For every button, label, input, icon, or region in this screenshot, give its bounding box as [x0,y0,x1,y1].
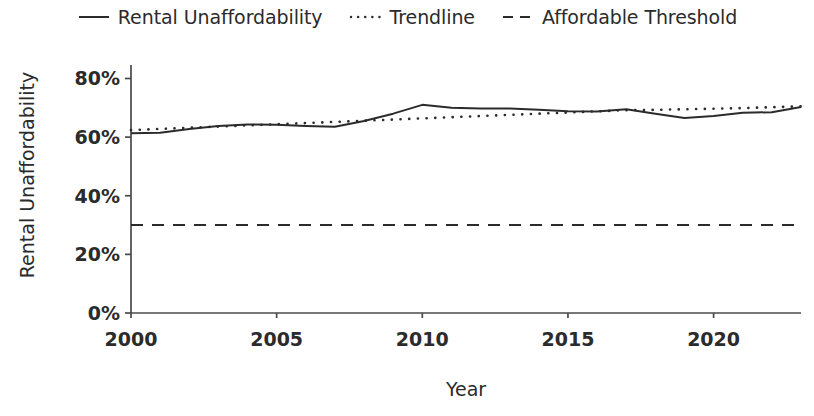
plot-area [0,0,814,416]
x-axis-tick-label: 2020 [687,328,740,350]
x-axis-tick-label: 2015 [542,328,595,350]
series-line-rental-unaffordability [131,105,801,133]
chart-figure: Rental Unaffordability Trendline Afforda… [0,0,814,416]
x-axis-tick-label: 2005 [250,328,303,350]
series-line-trendline [131,106,801,130]
x-axis-tick-label: 2010 [396,328,449,350]
x-axis-tick-label: 2000 [105,328,158,350]
